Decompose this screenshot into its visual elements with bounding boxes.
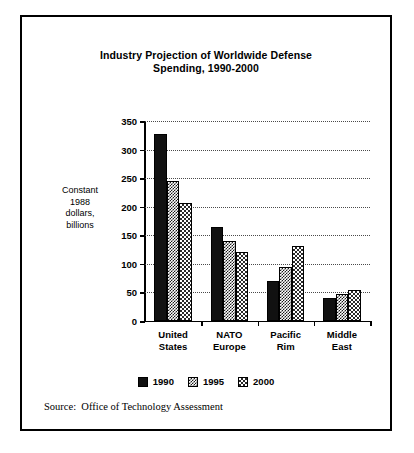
- bar: [179, 203, 192, 321]
- x-axis-category-label: NATOEurope: [201, 329, 257, 352]
- legend-label: 2000: [253, 376, 274, 387]
- y-axis-tick-mark: [140, 292, 145, 294]
- x-axis-category-label-line-2: States: [145, 341, 201, 353]
- bar-group: [154, 121, 192, 321]
- y-axis-tick-label: 300: [121, 144, 137, 155]
- plot-area: 050100150200250300350: [145, 121, 370, 321]
- bar: [154, 134, 167, 321]
- bar: [336, 294, 349, 321]
- bar-group: [323, 121, 361, 321]
- y-axis-tick-mark: [140, 150, 145, 152]
- bar-chart-plot: 050100150200250300350 UnitedStatesNATOEu…: [117, 117, 377, 327]
- legend-swatch: [138, 377, 148, 387]
- y-axis-tick-label: 150: [121, 230, 137, 241]
- legend-swatch: [238, 377, 248, 387]
- bar: [223, 241, 236, 321]
- x-axis-tick-mark: [201, 321, 203, 326]
- y-axis-caption: Constant 1988 dollars, billions: [48, 185, 112, 231]
- bar: [236, 252, 249, 321]
- x-axis-category-label: MiddleEast: [314, 329, 370, 352]
- legend-item: 1990: [138, 376, 174, 387]
- figure-frame: Industry Projection of Worldwide Defense…: [20, 15, 392, 431]
- x-axis-category-label-line-2: Europe: [201, 341, 257, 353]
- y-axis-tick-label: 350: [121, 116, 137, 127]
- chart-title-line-1: Industry Projection of Worldwide Defense: [22, 49, 390, 62]
- y-axis-tick-label: 0: [132, 316, 137, 327]
- bar: [323, 298, 336, 321]
- x-axis-category-label-line-2: Rim: [258, 341, 314, 353]
- chart-title-line-2: Spending, 1990-2000: [22, 62, 390, 75]
- bar: [279, 267, 292, 321]
- x-axis-category-label-line-1: NATO: [201, 329, 257, 341]
- legend-label: 1995: [203, 376, 224, 387]
- y-axis-tick-mark: [140, 264, 145, 266]
- x-axis-tick-mark: [370, 321, 372, 326]
- legend-label: 1990: [153, 376, 174, 387]
- y-axis-tick-mark: [140, 121, 145, 123]
- y-axis-caption-line-1: Constant: [48, 185, 112, 197]
- bar-group: [267, 121, 305, 321]
- x-axis-category-label-line-1: Pacific: [258, 329, 314, 341]
- x-axis-category-label-line-1: United: [145, 329, 201, 341]
- x-axis-category-label-line-2: East: [314, 341, 370, 353]
- bar: [167, 181, 180, 321]
- legend-item: 1995: [188, 376, 224, 387]
- y-axis-caption-line-2: 1988: [48, 197, 112, 209]
- y-axis-tick-label: 100: [121, 258, 137, 269]
- bar: [292, 246, 305, 321]
- bar: [348, 290, 361, 321]
- source-note: Source: Office of Technology Assessment: [44, 401, 223, 412]
- y-axis-tick-mark: [140, 321, 145, 323]
- x-axis-category-label: UnitedStates: [145, 329, 201, 352]
- y-axis-tick-label: 250: [121, 173, 137, 184]
- bar: [267, 281, 280, 321]
- y-axis-caption-line-3: dollars,: [48, 208, 112, 220]
- bar: [211, 227, 224, 321]
- y-axis-tick-label: 50: [126, 287, 137, 298]
- y-axis-caption-line-4: billions: [48, 220, 112, 232]
- x-axis-category-label-line-1: Middle: [314, 329, 370, 341]
- legend-swatch: [188, 377, 198, 387]
- y-axis-tick-mark: [140, 235, 145, 237]
- y-axis-tick-mark: [140, 178, 145, 180]
- x-axis-tick-mark: [314, 321, 316, 326]
- chart-title: Industry Projection of Worldwide Defense…: [22, 49, 390, 75]
- x-axis-category-label: PacificRim: [258, 329, 314, 352]
- y-axis-tick-label: 200: [121, 201, 137, 212]
- bar-group: [211, 121, 249, 321]
- legend-item: 2000: [238, 376, 274, 387]
- chart-legend: 199019952000: [22, 376, 390, 387]
- y-axis-tick-mark: [140, 207, 145, 209]
- x-axis-tick-mark: [258, 321, 260, 326]
